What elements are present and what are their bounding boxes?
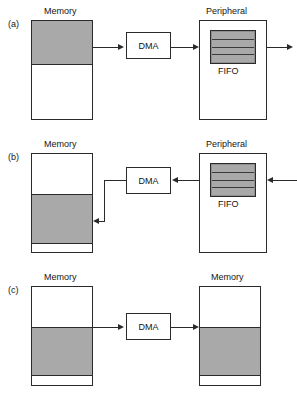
fifo-row — [212, 165, 254, 173]
memory-box-a — [31, 20, 93, 120]
fifo-stack-b — [210, 163, 256, 197]
memory-used-region-c-left — [32, 328, 92, 375]
peripheral-box-a: FIFO — [199, 20, 267, 120]
arrow-dma-to-periph-line-a — [171, 47, 193, 48]
arrow-external-in-line-b — [273, 180, 297, 181]
fifo-row — [212, 188, 254, 195]
memory-used-region-a — [32, 21, 92, 64]
fifo-row — [212, 40, 254, 48]
fifo-label-a: FIFO — [218, 66, 239, 76]
memory-tail-region-b — [32, 244, 92, 252]
memory-label-c-right: Memory — [211, 272, 244, 282]
arrow-periph-out-line-a — [267, 47, 287, 48]
fifo-row — [212, 48, 254, 56]
fifo-row — [212, 181, 254, 189]
fifo-row — [212, 173, 254, 181]
memory-used-region-b — [32, 195, 92, 243]
arrow-periph-out-head-a — [287, 44, 293, 50]
fifo-stack-a — [210, 30, 256, 64]
memory-free-region-c-right — [200, 287, 260, 327]
dma-box-a: DMA — [126, 32, 171, 59]
memory-tail-region-c-right — [200, 376, 260, 385]
memory-free-region-a — [32, 65, 92, 119]
memory-box-b — [31, 153, 93, 253]
memory-free-region-c-left — [32, 287, 92, 327]
arrow-dma-to-mem-head-b — [93, 218, 99, 224]
fifo-row — [212, 55, 254, 62]
memory-used-region-c-right — [200, 328, 260, 375]
peripheral-box-b: FIFO — [199, 153, 267, 253]
memory-tail-region-c-left — [32, 376, 92, 385]
peripheral-label-b: Peripheral — [206, 139, 247, 149]
panel-tag-b: (b) — [8, 152, 19, 162]
memory-box-c-left — [31, 286, 93, 386]
arrow-mem-to-dma-head-a — [118, 44, 124, 50]
panel-tag-c: (c) — [8, 285, 19, 295]
peripheral-label-a: Peripheral — [206, 6, 247, 16]
arrow-periph-to-dma-line-b — [178, 180, 199, 181]
arrow-dma-to-mem-seg2-b — [104, 180, 105, 221]
memory-box-c-right — [199, 286, 261, 386]
arrow-dma-to-mem-line-c — [171, 327, 193, 328]
arrow-mem-to-dma-line-a — [93, 47, 118, 48]
fifo-label-b: FIFO — [218, 199, 239, 209]
fifo-row — [212, 32, 254, 40]
arrow-dma-to-mem-seg3-b — [99, 221, 105, 222]
arrow-mem-to-dma-line-c — [93, 327, 118, 328]
memory-label-c-left: Memory — [44, 272, 77, 282]
arrow-periph-to-dma-head-b — [172, 177, 178, 183]
arrow-dma-to-mem-seg1-b — [104, 180, 126, 181]
arrow-mem-to-dma-head-c — [118, 324, 124, 330]
dma-box-b: DMA — [126, 167, 171, 194]
panel-tag-a: (a) — [8, 19, 19, 29]
dma-box-c: DMA — [126, 313, 171, 340]
memory-label-a: Memory — [44, 6, 77, 16]
arrow-external-in-head-b — [267, 177, 273, 183]
memory-free-region-b — [32, 154, 92, 194]
memory-label-b: Memory — [44, 139, 77, 149]
figure-canvas: (a) Memory DMA Peripheral FIFO (b) Memor… — [0, 0, 297, 399]
